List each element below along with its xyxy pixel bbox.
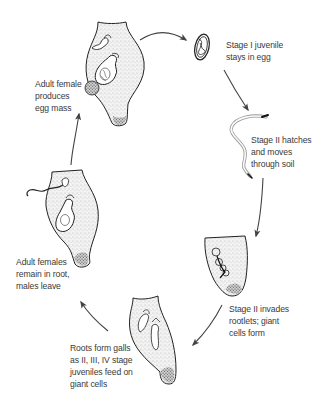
- label-line: males leave: [16, 280, 69, 292]
- label-adults: Adult females remain in root, males leav…: [16, 256, 69, 292]
- label-hatch: Stage II hatches and moves through soil: [251, 134, 312, 170]
- arrow-adults-to-egg-mass: [71, 114, 79, 165]
- label-line: cells form: [229, 327, 289, 339]
- label-line: Stage I juvenile: [226, 39, 283, 51]
- label-line: juveniles feed on: [70, 366, 133, 378]
- label-line: egg mass: [35, 102, 82, 114]
- label-line: rootlets; giant: [229, 315, 289, 327]
- label-line: giant cells: [70, 378, 133, 390]
- label-line: Adult female: [35, 78, 82, 90]
- label-line: Roots form galls: [70, 342, 133, 354]
- label-egg-mass: Adult female produces egg mass: [35, 78, 82, 114]
- arrow-hatch-to-invade: [256, 178, 263, 236]
- root-gall-adults-icon: [27, 170, 98, 267]
- arrow-egg-to-hatch: [224, 70, 248, 110]
- label-line: Stage II invades: [229, 303, 289, 315]
- label-line: Stage II hatches: [251, 134, 312, 146]
- label-invade: Stage II invades rootlets; giant cells f…: [229, 303, 289, 339]
- label-line: remain in root,: [16, 268, 69, 280]
- nematode-life-cycle-diagram: Adult female produces egg mass Stage I j…: [0, 0, 325, 410]
- arrow-galls-to-adults: [81, 302, 108, 331]
- label-line: as II, III, IV stage: [70, 354, 133, 366]
- root-tip-icon: [205, 236, 248, 296]
- label-line: and moves: [251, 146, 312, 158]
- label-line: Adult females: [16, 256, 69, 268]
- label-galls: Roots form galls as II, III, IV stage ju…: [70, 342, 133, 390]
- nematode-egg-icon: [192, 33, 211, 61]
- label-line: stays in egg: [226, 51, 283, 63]
- arrow-egg-mass-to-egg: [140, 33, 186, 41]
- label-line: produces: [35, 90, 82, 102]
- root-gall-icon: [129, 296, 176, 384]
- label-line: through soil: [251, 158, 312, 170]
- label-egg: Stage I juvenile stays in egg: [226, 39, 283, 63]
- arrow-invade-to-galls: [193, 305, 222, 345]
- root-gall-egg-mass-icon: [85, 22, 144, 126]
